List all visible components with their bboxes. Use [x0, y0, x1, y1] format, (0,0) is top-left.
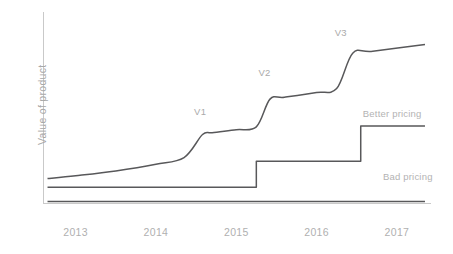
x-tick-label-2013: 2013 [63, 226, 88, 238]
chart-plot-area [0, 0, 453, 254]
series-label-bad-pricing: Bad pricing [383, 171, 433, 182]
x-tick-label-2017: 2017 [385, 226, 410, 238]
y-axis-title: Value of product [36, 65, 48, 146]
annotation-v2: V2 [258, 67, 270, 78]
chart-container: Value of product 20132014201520162017 V1… [0, 0, 453, 254]
annotation-v3: V3 [335, 27, 347, 38]
annotation-v1: V1 [194, 106, 206, 117]
series-line-better-pricing [48, 126, 425, 187]
x-tick-label-2014: 2014 [144, 226, 169, 238]
series-label-better-pricing: Better pricing [363, 108, 422, 119]
series-group [48, 45, 425, 202]
x-tick-label-2015: 2015 [224, 226, 249, 238]
x-tick-label-2016: 2016 [304, 226, 329, 238]
